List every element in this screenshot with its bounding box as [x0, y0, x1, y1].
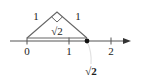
- sqrt2-diagram: 1 1 √2 0 1 2 √2: [0, 0, 142, 82]
- sqrt2-point: [85, 39, 90, 44]
- right-angle-marker: [52, 17, 63, 22]
- tick-label-2: 2: [108, 45, 114, 57]
- leg-right-label: 1: [75, 10, 81, 22]
- leg-left-label: 1: [33, 10, 39, 22]
- hypotenuse-label: √2: [51, 25, 63, 37]
- tick-label-0: 0: [24, 45, 30, 57]
- point-label: √2: [85, 65, 97, 77]
- tick-label-1: 1: [66, 45, 72, 57]
- compass-arc: [87, 41, 91, 64]
- axis-arrow-icon: [123, 38, 131, 44]
